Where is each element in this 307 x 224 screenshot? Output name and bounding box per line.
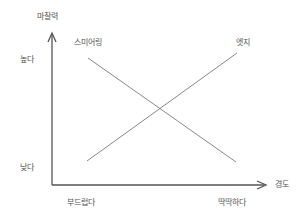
x-axis-high-label: 딱딱하다: [218, 198, 246, 208]
smearing-line-label: 스미어링: [74, 38, 102, 48]
y-axis-low-label: 낮다: [20, 163, 34, 173]
edge-line: [87, 53, 237, 161]
y-axis-high-label: 높다: [20, 55, 34, 65]
edge-line-label: 엣지: [236, 38, 250, 48]
diagram-canvas: [0, 0, 307, 224]
y-axis-title: 마찰력: [37, 12, 58, 22]
x-axis-title: 경도: [275, 180, 289, 190]
x-axis-low-label: 부드럽다: [67, 198, 95, 208]
smearing-line: [88, 58, 236, 162]
